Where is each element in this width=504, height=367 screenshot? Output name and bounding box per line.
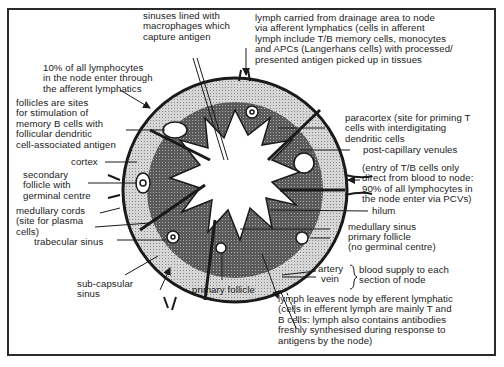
label-blood-supply: blood supply to each section of node [359,265,449,286]
label-afferent-lymph: lymph carried from drainage area to node… [255,13,453,65]
label-medullary-cords: medullary cords (site for plasma cells) [16,206,85,237]
label-ten-percent: 10% of all lymphocytes in the node enter… [43,63,153,94]
brace [350,265,357,289]
label-secondary-follicle: secondary follicle with germinal centre [23,170,91,201]
label-trabecular-sinus: trabecular sinus [34,237,103,247]
label-follicles: follicles are sites for stimulation of m… [16,98,116,150]
label-hilum: hilum [372,206,395,216]
label-cortex: cortex [71,157,98,167]
label-pcv-entry: (entry of T/B cells only direct from blo… [362,163,473,205]
label-primary-follicle-right: primary follicle (no germinal centre) [348,232,436,253]
label-subcapsular-sinus: sub-capsular sinus [77,279,133,300]
label-vein: vein [321,274,339,284]
label-efferent-lymph: lymph leaves node by efferent lymphatic … [278,294,453,346]
label-post-capillary: post-capillary venules [363,145,457,155]
label-paracortex: paracortex (site for priming T cells wit… [345,113,470,144]
label-primary-follicle-bottom: primary follicle [192,285,255,295]
label-sinuses: sinuses lined with macrophages which cap… [143,11,230,42]
